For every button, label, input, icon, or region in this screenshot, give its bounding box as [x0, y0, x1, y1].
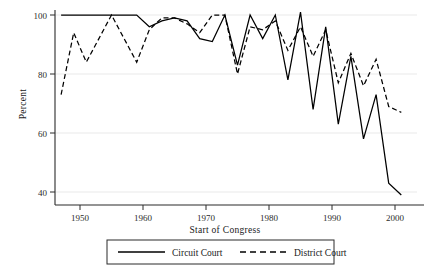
x-tick-label-1980: 1980: [260, 213, 279, 223]
gridlines: [55, 15, 417, 192]
y-axis: 100 80 60 40: [34, 10, 56, 205]
x-tick-label-1960: 1960: [134, 213, 153, 223]
y-tick-label-40: 40: [38, 188, 48, 198]
series-line-district-court: [61, 15, 401, 112]
x-axis-title: Start of Congress: [189, 225, 260, 235]
x-tick-label-2000: 2000: [386, 213, 405, 223]
chart-figure: 100 80 60 40 Percent 1950 1960 1970 1980…: [0, 0, 433, 276]
y-tick-label-80: 80: [38, 70, 48, 80]
series-group: [61, 12, 401, 195]
line-chart-svg: 100 80 60 40 Percent 1950 1960 1970 1980…: [0, 0, 433, 276]
y-tick-label-100: 100: [34, 11, 48, 21]
chart-legend: Circuit Court District Court: [107, 240, 347, 264]
legend-label-circuit-court: Circuit Court: [172, 248, 223, 258]
x-tick-label-1970: 1970: [197, 213, 216, 223]
legend-label-district-court: District Court: [294, 248, 347, 258]
series-line-circuit-court: [61, 12, 401, 195]
y-tick-label-60: 60: [38, 129, 48, 139]
x-tick-label-1990: 1990: [323, 213, 342, 223]
x-tick-label-1950: 1950: [71, 213, 90, 223]
x-axis: 1950 1960 1970 1980 1990 2000: [55, 205, 424, 223]
y-axis-title: Percent: [18, 89, 28, 120]
